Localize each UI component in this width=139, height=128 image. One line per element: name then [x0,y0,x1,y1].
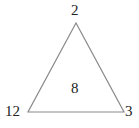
triangle-shape [0,0,139,128]
center-label: 8 [71,81,79,96]
vertex-top-label: 2 [71,3,79,18]
vertex-bottom-left-label: 12 [5,104,20,119]
triangle-diagram: 2 12 3 8 [0,0,139,128]
vertex-bottom-right-label: 3 [125,104,133,119]
